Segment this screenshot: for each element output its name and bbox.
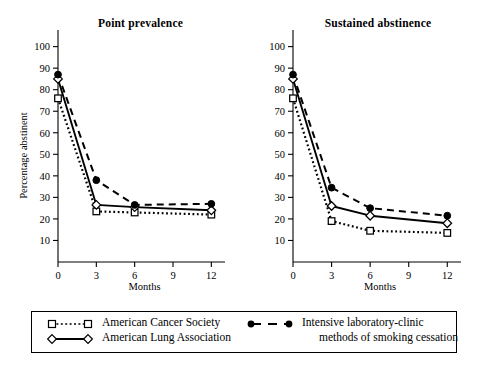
y-tick-label: 50: [40, 149, 51, 160]
y-tick-label: 60: [40, 128, 51, 139]
plot-area-right: 102030405060708090100036912: [243, 0, 489, 300]
data-point-marker: [131, 202, 138, 209]
legend-marker-american-lung-association: [47, 333, 93, 345]
y-tick-label: 90: [40, 63, 51, 74]
legend-label-american-cancer-society: American Cancer Society: [102, 316, 220, 328]
x-tick-label: 6: [132, 270, 137, 281]
data-point-marker: [366, 211, 375, 220]
data-point-marker: [327, 202, 336, 211]
x-tick-label: 12: [442, 270, 453, 281]
x-tick-label: 0: [55, 270, 60, 281]
data-point-marker: [55, 71, 62, 78]
x-tick-label: 6: [368, 270, 373, 281]
chart-panel-sustained-abstinence: Sustained abstinence Months 102030405060…: [243, 0, 489, 300]
series-line: [293, 75, 447, 216]
legend-marker-intensive-laboratory-clinic: [247, 318, 293, 330]
data-point-marker: [444, 212, 451, 219]
series-line: [293, 79, 447, 223]
data-point-marker: [290, 71, 297, 78]
x-tick-label: 3: [329, 270, 334, 281]
y-tick-label: 10: [275, 235, 286, 246]
data-point-marker: [328, 184, 335, 191]
data-point-marker: [367, 205, 374, 212]
y-tick-label: 100: [34, 41, 50, 52]
data-point-marker: [93, 177, 100, 184]
y-tick-label: 100: [269, 41, 285, 52]
data-point-marker: [367, 227, 374, 234]
x-tick-label: 9: [406, 270, 411, 281]
y-tick-label: 30: [275, 192, 286, 203]
y-tick-label: 50: [275, 149, 286, 160]
data-point-marker: [328, 218, 335, 225]
y-tick-label: 80: [275, 84, 286, 95]
y-tick-label: 40: [40, 171, 51, 182]
data-point-marker: [444, 230, 451, 237]
data-point-marker: [55, 95, 62, 102]
y-tick-label: 60: [275, 128, 286, 139]
y-tick-label: 20: [40, 214, 51, 225]
x-tick-label: 9: [170, 270, 175, 281]
legend: American Cancer Society American Lung As…: [31, 311, 457, 353]
series-line: [58, 79, 211, 210]
legend-label-methods-of-smoking-cessation: methods of smoking cessation: [319, 331, 458, 343]
data-point-marker: [208, 200, 215, 207]
y-tick-label: 80: [40, 84, 51, 95]
x-tick-label: 0: [290, 270, 295, 281]
y-tick-label: 40: [275, 171, 286, 182]
legend-marker-american-cancer-society: [47, 318, 93, 330]
y-tick-label: 70: [275, 106, 286, 117]
series-line: [58, 75, 211, 205]
x-tick-label: 12: [206, 270, 217, 281]
legend-label-american-lung-association: American Lung Association: [102, 331, 231, 343]
y-tick-label: 30: [40, 192, 51, 203]
data-point-marker: [443, 219, 452, 228]
y-tick-label: 20: [275, 214, 286, 225]
plot-area-left: 102030405060708090100036912: [0, 0, 245, 300]
figure: Point prevalence Percentage abstinent Mo…: [0, 0, 489, 365]
x-tick-label: 3: [94, 270, 99, 281]
legend-label-intensive-laboratory-clinic: Intensive laboratory-clinic: [302, 316, 424, 328]
data-point-marker: [290, 95, 297, 102]
chart-panel-point-prevalence: Point prevalence Percentage abstinent Mo…: [0, 0, 245, 300]
y-tick-label: 90: [275, 63, 286, 74]
y-tick-label: 70: [40, 106, 51, 117]
y-tick-label: 10: [40, 235, 51, 246]
